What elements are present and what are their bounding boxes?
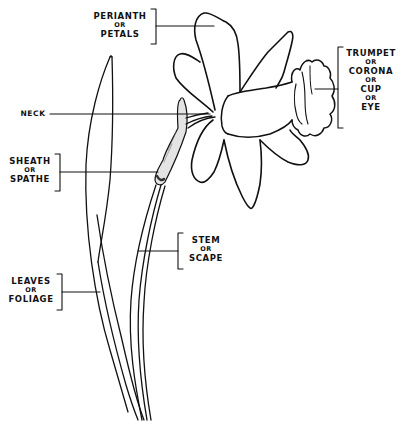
label-perianth: PERIANTH OR PETALS	[88, 11, 152, 39]
trumpet-primary: TRUMPET	[342, 48, 400, 58]
trumpet-conj2: OR	[342, 76, 400, 84]
leaves-primary: LEAVES	[4, 276, 58, 286]
label-trumpet: TRUMPET OR CORONA OR CUP OR EYE	[342, 48, 400, 112]
leaves-conj: OR	[4, 286, 58, 294]
label-stem: STEM OR SCAPE	[184, 235, 228, 263]
neck-drawing	[186, 113, 215, 128]
sheath-drawing	[155, 98, 187, 185]
trumpet-drawing	[221, 60, 335, 137]
neck-primary: NECK	[18, 109, 48, 119]
label-sheath: SHEATH OR SPATHE	[4, 156, 56, 184]
sheath-conj: OR	[4, 166, 56, 174]
leader-lines	[50, 9, 343, 310]
stem-conj: OR	[184, 245, 228, 253]
perianth-conj: OR	[88, 21, 152, 29]
sheath-secondary: SPATHE	[4, 174, 56, 184]
perianth-secondary: PETALS	[88, 29, 152, 39]
trumpet-secondary: CORONA	[342, 66, 400, 76]
perianth-drawing	[174, 13, 309, 208]
stem-primary: STEM	[184, 235, 228, 245]
leaves-secondary: FOLIAGE	[4, 294, 58, 304]
sheath-primary: SHEATH	[4, 156, 56, 166]
leaves-drawing	[86, 56, 144, 420]
trumpet-quaternary: EYE	[342, 102, 400, 112]
stem-secondary: SCAPE	[184, 253, 228, 263]
perianth-primary: PERIANTH	[88, 11, 152, 21]
trumpet-tertiary: CUP	[342, 84, 400, 94]
stem-drawing	[130, 185, 165, 420]
trumpet-conj1: OR	[342, 58, 400, 66]
trumpet-conj3: OR	[342, 94, 400, 102]
label-leaves: LEAVES OR FOLIAGE	[4, 276, 58, 304]
label-neck: NECK	[18, 109, 48, 119]
